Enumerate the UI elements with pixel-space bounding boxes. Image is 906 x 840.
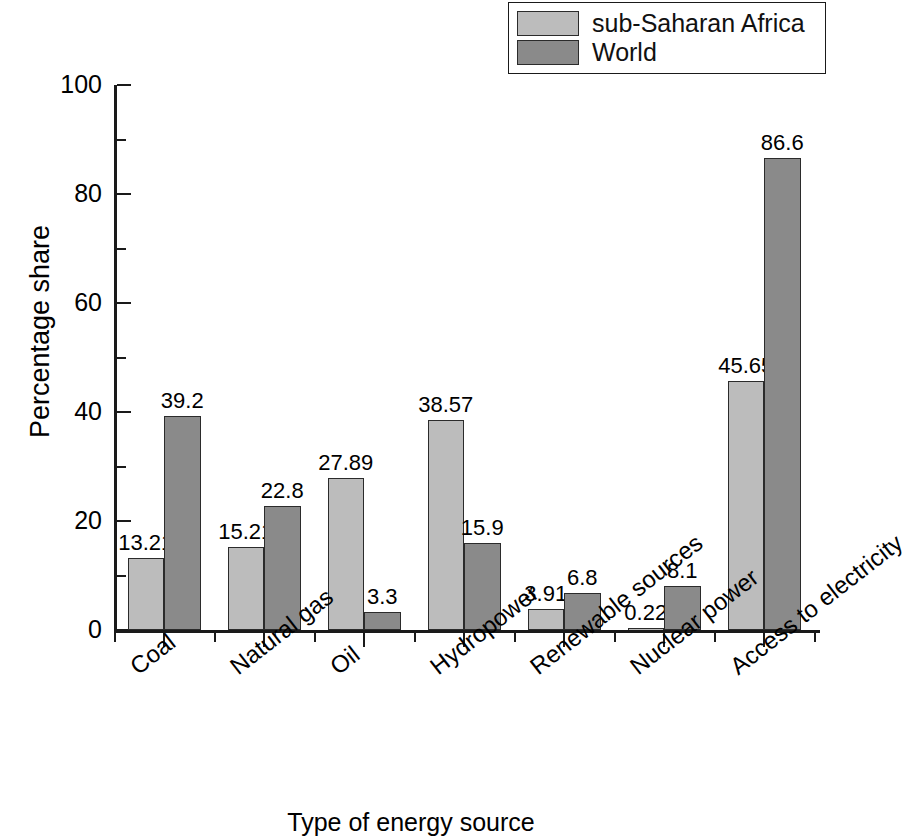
bar-value-label: 22.8 (247, 480, 318, 502)
bar-value-label: 6.8 (547, 567, 618, 589)
bar (128, 558, 165, 630)
bar (528, 609, 565, 630)
bar-value-label: 38.57 (411, 394, 482, 416)
chart-legend: sub-Saharan Africa World (508, 2, 826, 74)
x-category-label: Oil (326, 642, 364, 679)
x-tick-minor (514, 633, 516, 642)
x-tick-minor (414, 633, 416, 642)
x-tick-minor (114, 633, 116, 642)
y-tick-label: 0 (22, 617, 102, 642)
y-tick-major (117, 84, 131, 86)
y-tick-minor (117, 248, 126, 250)
y-tick-label: 80 (22, 181, 102, 206)
y-tick-label: 40 (22, 399, 102, 424)
legend-label-sub-saharan-africa: sub-Saharan Africa (592, 11, 805, 36)
x-axis-title: Type of energy source (0, 808, 822, 837)
bar (764, 158, 801, 630)
y-tick-major (117, 520, 131, 522)
bar-value-label: 3.3 (347, 586, 418, 608)
legend-swatch-sub-saharan-africa (517, 11, 579, 36)
y-tick-label: 100 (22, 72, 102, 97)
legend-item-world: World (517, 38, 819, 67)
y-tick-major (117, 193, 131, 195)
x-tick-minor (614, 633, 616, 642)
x-tick-major (363, 633, 365, 647)
bar-value-label: 39.2 (147, 390, 218, 412)
y-tick-minor (117, 139, 126, 141)
bar (228, 547, 265, 630)
x-tick-minor (814, 633, 816, 642)
y-tick-minor (117, 575, 126, 577)
bar (364, 612, 401, 630)
y-tick-minor (117, 357, 126, 359)
x-tick-minor (714, 633, 716, 642)
x-tick-minor (314, 633, 316, 642)
y-tick-label: 20 (22, 508, 102, 533)
bar (164, 416, 201, 630)
y-tick-major (117, 302, 131, 304)
legend-swatch-world (517, 40, 579, 65)
x-category-label: Coal (126, 630, 180, 679)
legend-item-sub-saharan-africa: sub-Saharan Africa (517, 9, 819, 38)
legend-label-world: World (592, 40, 657, 65)
bar-value-label: 86.6 (747, 132, 818, 154)
bar-value-label: 27.89 (311, 452, 382, 474)
y-tick-label: 60 (22, 290, 102, 315)
x-tick-minor (214, 633, 216, 642)
y-tick-major (117, 411, 131, 413)
bar (628, 628, 665, 630)
y-tick-minor (117, 466, 126, 468)
bar-value-label: 15.9 (447, 517, 518, 539)
